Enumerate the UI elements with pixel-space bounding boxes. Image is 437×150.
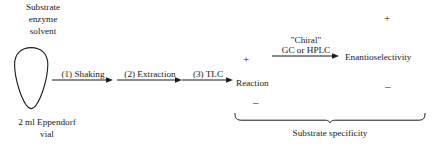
step-1-arrow-group: (1) Shaking [52, 62, 114, 84]
reaction-plus-sign: + [243, 54, 249, 65]
reagent-line-substrate: Substrate [6, 2, 80, 14]
step-3-arrow-icon [182, 76, 234, 84]
substrate-specificity-label: Substrate specificity [234, 128, 426, 138]
eppendorf-vial-icon [12, 46, 52, 114]
analysis-arrow-group: "Chiral" GC or HPLC [272, 28, 340, 60]
vial-caption-line2: vial [0, 129, 94, 141]
step-1-arrow-icon [52, 76, 114, 84]
reagents-label: Substrate enzyme solvent [6, 2, 80, 38]
enantioselectivity-minus-sign: – [385, 81, 391, 92]
enantioselectivity-label: Enantioselectivity [345, 52, 411, 62]
analysis-label-line1: "Chiral" [282, 35, 331, 46]
step-3-arrow-group: (3) TLC [182, 62, 234, 84]
enantioselectivity-plus-sign: + [384, 13, 390, 24]
substrate-specificity-brace-icon [234, 110, 426, 128]
vial-caption: 2 ml Eppendorf vial [0, 117, 94, 141]
step-2-arrow-icon [117, 76, 183, 84]
reagent-line-enzyme: enzyme [6, 14, 80, 26]
vial-caption-line1: 2 ml Eppendorf [0, 117, 94, 129]
analysis-arrow-icon [272, 52, 340, 60]
step-2-arrow-group: (2) Extraction [117, 62, 183, 84]
reaction-minus-sign: – [253, 97, 259, 108]
workflow-diagram: Substrate enzyme solvent 2 ml Eppendorf … [0, 0, 437, 150]
reaction-label: Reaction [236, 78, 269, 88]
reagent-line-solvent: solvent [6, 26, 80, 38]
